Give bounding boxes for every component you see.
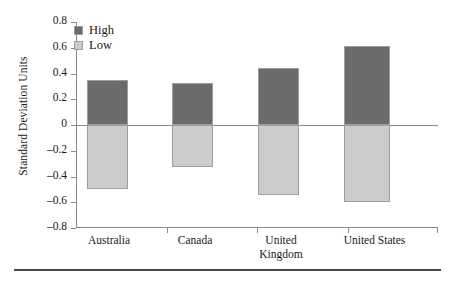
bar-low-united-states — [344, 125, 390, 202]
bar-low-canada — [172, 125, 213, 167]
legend-swatch-high-icon — [74, 26, 83, 35]
x-tick-2 — [257, 228, 258, 233]
x-tick-4 — [437, 228, 438, 233]
x-category-label-australia: Australia — [64, 234, 154, 248]
y-tick-3: 0.2 — [71, 99, 76, 100]
legend-label-low: Low — [89, 38, 112, 53]
x-tick-3 — [348, 228, 349, 233]
bottom-divider-rule — [14, 269, 441, 271]
y-tick-label-4: 0 — [33, 117, 67, 129]
x-category-label-canada: Canada — [150, 234, 240, 248]
y-tick-label-0: 0.8 — [33, 14, 67, 26]
y-tick-label-5: –0.2 — [33, 143, 67, 155]
legend-swatch-low-icon — [74, 41, 83, 50]
bar-group-united-states — [344, 22, 390, 228]
y-tick-4: 0 — [71, 125, 76, 126]
legend-label-high: High — [89, 23, 114, 38]
bar-high-canada — [172, 83, 213, 125]
y-tick-label-1: 0.6 — [33, 40, 67, 52]
bar-group-united-kingdom — [258, 22, 299, 228]
bar-group-canada — [172, 22, 213, 228]
bar-chart-figure: Standard Deviation Units 0.8 0.6 0.4 0.2… — [0, 0, 449, 282]
x-tick-1 — [167, 228, 168, 233]
bar-high-united-kingdom — [258, 68, 299, 125]
x-category-label-united-kingdom: United Kingdom — [236, 234, 326, 261]
x-category-label-uk-line2: Kingdom — [236, 248, 326, 262]
y-tick-7: –0.6 — [71, 202, 76, 203]
y-tick-label-6: –0.4 — [33, 169, 67, 181]
y-tick-6: –0.4 — [71, 177, 76, 178]
legend-item-high: High — [74, 23, 114, 38]
y-tick-label-2: 0.4 — [33, 66, 67, 78]
x-category-label-uk-line1: United — [236, 234, 326, 248]
y-tick-8: –0.8 — [71, 228, 76, 229]
y-axis-title: Standard Deviation Units — [17, 1, 29, 231]
y-tick-label-8: –0.8 — [33, 220, 67, 232]
plot-area: 0.8 0.6 0.4 0.2 0 –0.2 –0.4 –0.6 –0.8 — [76, 22, 438, 228]
bar-high-australia — [87, 80, 128, 125]
y-tick-2: 0.4 — [71, 74, 76, 75]
x-category-label-united-states: United States — [322, 234, 427, 248]
y-tick-label-3: 0.2 — [33, 91, 67, 103]
bar-low-australia — [87, 125, 128, 189]
legend-item-low: Low — [74, 38, 114, 53]
y-tick-5: –0.2 — [71, 151, 76, 152]
chart-legend: High Low — [74, 23, 114, 53]
y-tick-label-7: –0.6 — [33, 194, 67, 206]
bar-low-united-kingdom — [258, 125, 299, 195]
bar-high-united-states — [344, 46, 390, 125]
